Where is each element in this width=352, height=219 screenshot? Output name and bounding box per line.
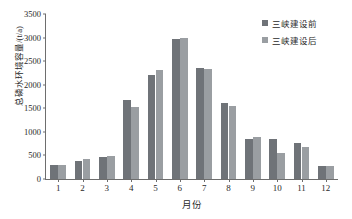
bar-before-month-2 xyxy=(75,161,83,179)
legend-item-before: 三峡建设前 xyxy=(262,17,317,29)
y-axis-tick-mark xyxy=(43,14,46,15)
bar-before-month-7 xyxy=(196,68,204,179)
y-axis-tick-mark xyxy=(43,155,46,156)
x-axis-tick-label: 8 xyxy=(226,183,231,193)
bar-before-month-5 xyxy=(148,75,156,179)
bar-before-month-10 xyxy=(269,139,277,179)
x-axis-tick-label: 9 xyxy=(251,183,256,193)
x-axis-tick-label: 10 xyxy=(273,183,282,193)
bar-after-month-6 xyxy=(180,38,188,179)
bar-before-month-12 xyxy=(318,166,326,179)
x-axis-tick-label: 3 xyxy=(105,183,110,193)
bar-before-month-11 xyxy=(294,143,302,179)
legend-label-after: 三峡建设后 xyxy=(272,34,317,46)
x-axis-tick-mark xyxy=(326,179,327,182)
x-axis-tick-mark xyxy=(58,179,59,182)
x-axis-tick-label: 7 xyxy=(202,183,207,193)
x-axis-tick-mark xyxy=(302,179,303,182)
x-axis-tick-label: 11 xyxy=(297,183,306,193)
bar-before-month-4 xyxy=(123,100,131,179)
bar-before-month-1 xyxy=(50,165,58,179)
x-axis-tick-mark xyxy=(180,179,181,182)
bar-after-month-3 xyxy=(107,156,115,179)
bar-after-month-8 xyxy=(229,106,237,179)
bar-after-month-1 xyxy=(58,165,66,179)
x-axis-tick-label: 2 xyxy=(80,183,85,193)
y-axis-tick-mark xyxy=(43,179,46,180)
bar-after-month-4 xyxy=(131,107,139,179)
x-axis-tick-mark xyxy=(83,179,84,182)
bar-after-month-12 xyxy=(326,166,334,179)
x-axis-tick-mark xyxy=(277,179,278,182)
bar-after-month-11 xyxy=(302,147,310,179)
legend-item-after: 三峡建设后 xyxy=(262,34,317,46)
y-axis-tick-mark xyxy=(43,84,46,85)
x-axis-title: 月份 xyxy=(45,197,338,211)
bar-after-month-7 xyxy=(204,69,212,179)
x-axis-tick-label: 12 xyxy=(321,183,330,193)
bar-chart: 总磷水环境容量/(t/a) 05001000150020002500300035… xyxy=(0,0,352,219)
x-axis-tick-label: 4 xyxy=(129,183,134,193)
bar-after-month-2 xyxy=(83,159,91,179)
x-axis-tick-mark xyxy=(107,179,108,182)
bar-after-month-5 xyxy=(156,70,164,179)
bar-before-month-6 xyxy=(172,39,180,179)
x-axis-tick-label: 1 xyxy=(56,183,61,193)
bar-after-month-10 xyxy=(277,153,285,179)
legend-swatch-icon xyxy=(262,37,268,43)
x-axis-tick-mark xyxy=(156,179,157,182)
x-axis-tick-mark xyxy=(229,179,230,182)
bar-before-month-8 xyxy=(221,103,229,179)
x-axis-tick-mark xyxy=(131,179,132,182)
bar-before-month-9 xyxy=(245,139,253,179)
x-axis-tick-mark xyxy=(253,179,254,182)
y-axis-tick-mark xyxy=(43,61,46,62)
x-axis-tick-label: 5 xyxy=(153,183,158,193)
y-axis-tick-mark xyxy=(43,108,46,109)
y-axis-tick-mark xyxy=(43,37,46,38)
bar-after-month-9 xyxy=(253,137,261,179)
chart-legend: 三峡建设前 三峡建设后 xyxy=(262,17,317,51)
x-axis-tick-label: 6 xyxy=(178,183,183,193)
y-axis-tick-mark xyxy=(43,131,46,132)
legend-label-before: 三峡建设前 xyxy=(272,17,317,29)
bar-before-month-3 xyxy=(99,157,107,179)
x-axis-tick-mark xyxy=(204,179,205,182)
y-axis-title: 总磷水环境容量/(t/a) xyxy=(12,0,24,136)
legend-swatch-icon xyxy=(262,20,268,26)
